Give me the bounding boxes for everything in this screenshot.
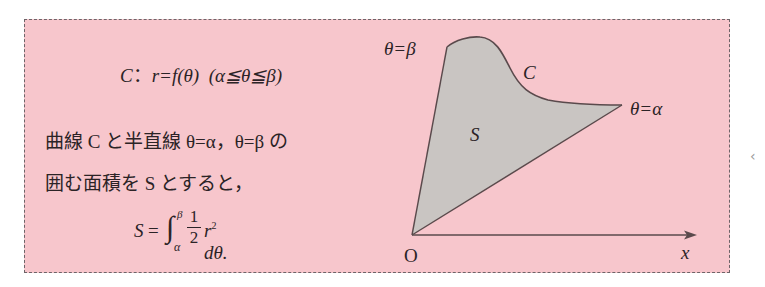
- label-area-s: S: [470, 124, 480, 145]
- polar-area-diagram: θ=β θ=α C S O x: [0, 0, 765, 287]
- label-origin: O: [404, 245, 418, 266]
- label-theta-alpha: θ=α: [630, 98, 663, 119]
- label-theta-beta: θ=β: [384, 38, 416, 59]
- label-curve-c: C: [523, 62, 536, 83]
- label-x-axis: x: [680, 242, 690, 263]
- chevron-left-icon[interactable]: ‹: [750, 148, 756, 164]
